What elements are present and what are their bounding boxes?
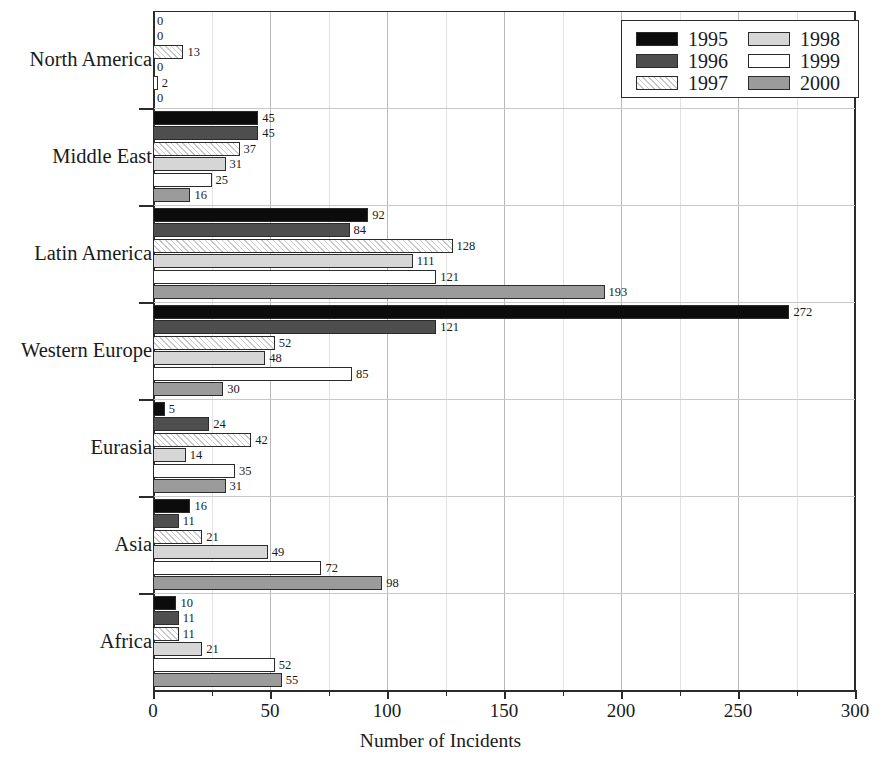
legend-item-1998[interactable]: 1998	[748, 28, 840, 50]
x-axis-tick	[153, 690, 155, 699]
category-group: Eurasia	[0, 399, 881, 496]
legend: 199519961997 199819992000	[621, 20, 859, 98]
x-axis-tick-label: 100	[373, 701, 402, 720]
category-group: Western Europe	[0, 302, 881, 399]
legend-label: 1999	[800, 51, 840, 71]
x-axis-tick	[738, 690, 740, 699]
category-group: Asia	[0, 496, 881, 593]
x-axis-tick	[270, 690, 272, 699]
legend-swatch-icon	[636, 76, 678, 90]
legend-item-1995[interactable]: 1995	[636, 28, 728, 50]
x-axis-tick-label: 150	[490, 701, 519, 720]
x-axis-tick-minor	[212, 690, 213, 696]
legend-label: 1996	[688, 51, 728, 71]
y-axis-category-label: North America	[30, 49, 152, 70]
x-axis-tick-minor	[329, 690, 330, 696]
x-axis-title: Number of Incidents	[0, 731, 881, 751]
y-axis-category-label: Eurasia	[91, 437, 152, 458]
y-axis-category-label: Middle East	[52, 146, 152, 167]
x-axis-tick-minor	[680, 690, 681, 696]
x-axis-tick-label: 300	[841, 701, 870, 720]
x-axis-tick	[387, 690, 389, 699]
legend-item-2000[interactable]: 2000	[748, 72, 840, 94]
legend-swatch-icon	[748, 32, 790, 46]
legend-item-1996[interactable]: 1996	[636, 50, 728, 72]
legend-swatch-icon	[748, 76, 790, 90]
legend-item-1999[interactable]: 1999	[748, 50, 840, 72]
x-axis-tick	[504, 690, 506, 699]
y-axis-category-label: Africa	[100, 631, 152, 652]
legend-item-1997[interactable]: 1997	[636, 72, 728, 94]
y-axis-category-label: Asia	[114, 534, 152, 555]
legend-column-right: 199819992000	[748, 28, 840, 94]
x-axis-tick	[855, 690, 857, 699]
category-group: Africa	[0, 593, 881, 690]
y-axis-category-label: Latin America	[34, 243, 152, 264]
bar-chart: 0013020North America454537312516Middle E…	[0, 0, 881, 766]
x-axis-tick-label: 200	[607, 701, 636, 720]
x-axis-tick-minor	[563, 690, 564, 696]
legend-swatch-icon	[636, 54, 678, 68]
x-axis-tick-label: 50	[261, 701, 280, 720]
category-group: Middle East	[0, 108, 881, 205]
y-axis-category-label: Western Europe	[21, 340, 152, 361]
legend-label: 1997	[688, 73, 728, 93]
legend-label: 1995	[688, 29, 728, 49]
x-axis-tick-minor	[446, 690, 447, 696]
x-axis-tick	[621, 690, 623, 699]
x-axis-tick-label: 250	[724, 701, 753, 720]
legend-column-left: 199519961997	[636, 28, 728, 94]
x-axis-tick-label: 0	[148, 701, 158, 720]
category-group: Latin America	[0, 205, 881, 302]
legend-swatch-icon	[748, 54, 790, 68]
legend-label: 1998	[800, 29, 840, 49]
legend-label: 2000	[800, 73, 840, 93]
legend-swatch-icon	[636, 32, 678, 46]
x-axis-tick-minor	[797, 690, 798, 696]
